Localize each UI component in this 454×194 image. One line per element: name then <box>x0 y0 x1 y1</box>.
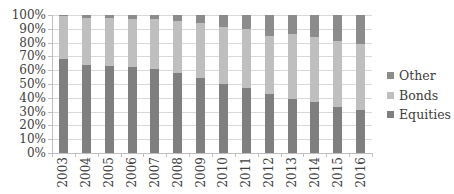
y-tick-label: 60% <box>19 64 46 76</box>
legend-item-bonds: Bonds <box>386 88 454 108</box>
bar-segment-bonds <box>150 19 159 69</box>
bar-segment-equities <box>242 88 251 153</box>
bar-segment-bonds <box>105 18 114 66</box>
bar-segment-bonds <box>242 29 251 88</box>
bar-segment-other <box>288 15 297 34</box>
y-tick-label: 100% <box>12 9 46 21</box>
y-tick-label: 80% <box>19 37 46 49</box>
y-axis-labels: 0%10%20%30%40%50%60%70%80%90%100% <box>0 0 46 194</box>
bar-segment-equities <box>173 73 182 153</box>
bar-segment-equities <box>356 110 365 153</box>
y-tick-label: 20% <box>19 119 46 131</box>
bar-segment-other <box>105 15 114 18</box>
x-tick-label: 2012 <box>263 157 275 191</box>
gridline <box>52 29 372 30</box>
x-tick-label: 2009 <box>195 157 207 191</box>
bar-segment-bonds <box>173 21 182 73</box>
legend-swatch-other <box>387 72 394 79</box>
bar-segment-other <box>310 15 319 37</box>
x-tick-mark <box>258 153 259 157</box>
legend-label-equities: Equities <box>399 107 451 123</box>
y-tick-label: 90% <box>19 23 46 35</box>
x-tick-mark <box>52 153 53 157</box>
legend-label-bonds: Bonds <box>399 88 438 104</box>
y-tick-label: 0% <box>27 147 46 159</box>
x-tick-mark <box>98 153 99 157</box>
x-tick-label: 2016 <box>355 157 367 191</box>
gridline <box>52 43 372 44</box>
gridline <box>52 70 372 71</box>
x-tick-label: 2011 <box>240 157 252 191</box>
y-tick-label: 70% <box>19 50 46 62</box>
x-tick-mark <box>326 153 327 157</box>
bar-segment-equities <box>105 66 114 153</box>
bar-segment-equities <box>196 78 205 153</box>
bar-segment-equities <box>333 107 342 153</box>
x-tick-label: 2014 <box>309 157 321 191</box>
bar-segment-equities <box>59 59 68 153</box>
bar-segment-equities <box>288 99 297 153</box>
legend-item-equities: Equities <box>386 107 454 127</box>
x-tick-mark <box>372 153 373 157</box>
gridline <box>52 84 372 85</box>
bar-segment-bonds <box>59 16 68 59</box>
bar-segment-bonds <box>128 19 137 67</box>
bar-segment-other <box>242 15 251 29</box>
bar-segment-equities <box>265 94 274 153</box>
bar-segment-other <box>356 15 365 44</box>
bar-segment-bonds <box>333 41 342 107</box>
x-tick-mark <box>166 153 167 157</box>
y-tick-label: 30% <box>19 106 46 118</box>
gridline <box>52 112 372 113</box>
x-tick-mark <box>235 153 236 157</box>
y-tick-label: 10% <box>19 133 46 145</box>
bar-segment-equities <box>82 65 91 153</box>
bar-segment-bonds <box>219 27 228 84</box>
gridline <box>52 56 372 57</box>
bar-segment-other <box>265 15 274 36</box>
x-tick-label: 2013 <box>286 157 298 191</box>
y-tick-label: 40% <box>19 92 46 104</box>
bar-segment-equities <box>310 102 319 153</box>
x-tick-mark <box>212 153 213 157</box>
bar-segment-other <box>333 15 342 41</box>
legend-swatch-equities <box>387 111 394 118</box>
bar-segment-bonds <box>196 23 205 78</box>
bar-segment-other <box>82 15 91 18</box>
legend-label-other: Other <box>399 68 436 84</box>
bar-segment-other <box>219 15 228 27</box>
bar-segment-equities <box>219 84 228 153</box>
x-tick-label: 2007 <box>149 157 161 191</box>
x-tick-label: 2003 <box>57 157 69 191</box>
legend-swatch-bonds <box>387 92 394 99</box>
bar-segment-other <box>59 15 68 16</box>
bar-segment-equities <box>150 69 159 153</box>
x-tick-label: 2004 <box>80 157 92 191</box>
bar-segment-bonds <box>288 34 297 99</box>
gridline <box>52 98 372 99</box>
x-tick-label: 2005 <box>103 157 115 191</box>
x-tick-mark <box>281 153 282 157</box>
gridline <box>52 139 372 140</box>
bar-segment-bonds <box>356 44 365 110</box>
x-tick-label: 2015 <box>332 157 344 191</box>
bar-segment-bonds <box>265 36 274 94</box>
x-tick-mark <box>121 153 122 157</box>
bar-segment-other <box>173 15 182 21</box>
x-tick-label: 2006 <box>126 157 138 191</box>
x-tick-mark <box>75 153 76 157</box>
x-tick-mark <box>303 153 304 157</box>
bar-segment-bonds <box>310 37 319 102</box>
legend-item-other: Other <box>386 68 454 88</box>
bar-segment-bonds <box>82 18 91 65</box>
bar-segment-other <box>196 15 205 23</box>
y-axis <box>52 15 53 153</box>
legend: Other Bonds Equities <box>386 68 454 127</box>
bar-segment-other <box>150 15 159 19</box>
gridline <box>52 125 372 126</box>
bar-segment-equities <box>128 67 137 153</box>
y-tick-label: 50% <box>19 78 46 90</box>
x-tick-label: 2008 <box>172 157 184 191</box>
x-tick-mark <box>143 153 144 157</box>
stacked-bar-chart: 0%10%20%30%40%50%60%70%80%90%100% 200320… <box>0 0 454 194</box>
